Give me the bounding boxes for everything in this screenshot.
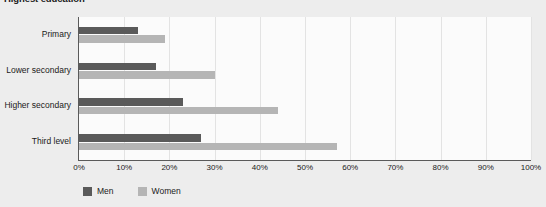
bar-men — [79, 98, 183, 106]
x-tick-label: 0% — [73, 163, 85, 172]
bar-men — [79, 134, 201, 142]
bar-men — [79, 27, 138, 35]
bar-chart: Highest education 0%10%20%30%40%50%60%70… — [0, 0, 546, 207]
legend-label: Men — [97, 186, 114, 196]
category-label: Third level — [0, 136, 71, 146]
x-tick-label: 100% — [521, 163, 541, 172]
legend-item-women[interactable]: Women — [138, 186, 181, 196]
bar-women — [79, 143, 337, 151]
chart-legend: MenWomen — [83, 186, 181, 196]
x-tick-label: 20% — [161, 163, 177, 172]
category-row: Third level — [0, 124, 546, 160]
x-axis-line — [78, 160, 531, 161]
x-tick-label: 10% — [116, 163, 132, 172]
x-tick-label: 90% — [478, 163, 494, 172]
chart-title: Highest education — [4, 0, 85, 4]
x-tick-label: 30% — [207, 163, 223, 172]
category-label: Primary — [0, 29, 71, 39]
bar-women — [79, 35, 165, 43]
x-tick-label: 40% — [252, 163, 268, 172]
category-row: Higher secondary — [0, 89, 546, 125]
x-tick-label: 80% — [433, 163, 449, 172]
category-row: Lower secondary — [0, 53, 546, 89]
legend-swatch-women — [138, 187, 147, 196]
x-tick-label: 70% — [387, 163, 403, 172]
legend-item-men[interactable]: Men — [83, 186, 114, 196]
legend-swatch-men — [83, 187, 92, 196]
bar-women — [79, 71, 215, 79]
category-label: Lower secondary — [0, 65, 71, 75]
legend-label: Women — [152, 186, 181, 196]
category-row: Primary — [0, 17, 546, 53]
bar-men — [79, 63, 156, 71]
x-tick-label: 50% — [297, 163, 313, 172]
category-label: Higher secondary — [0, 100, 71, 110]
bar-women — [79, 107, 278, 115]
x-tick-label: 60% — [342, 163, 358, 172]
